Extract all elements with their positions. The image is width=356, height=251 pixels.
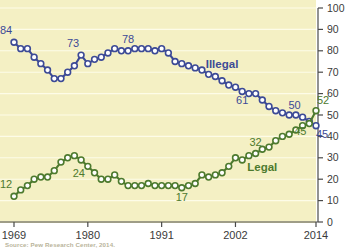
data-point-marker (286, 112, 292, 118)
data-point-marker (51, 76, 57, 82)
data-point-marker (165, 50, 171, 56)
data-point-marker (172, 183, 178, 189)
data-point-marker (266, 144, 272, 150)
data-point-marker (118, 178, 124, 184)
data-point-marker (152, 183, 158, 189)
data-point-marker (85, 61, 91, 67)
data-point-marker (186, 63, 192, 69)
data-point-marker (25, 46, 31, 52)
data-point-marker (92, 170, 98, 176)
data-point-marker (125, 48, 131, 54)
data-point-marker (159, 46, 165, 52)
data-point-label: 45 (294, 125, 306, 137)
data-point-marker (219, 170, 225, 176)
data-point-marker (152, 48, 158, 54)
data-point-marker (78, 157, 84, 163)
data-point-marker (98, 176, 104, 182)
data-point-label: 17 (176, 191, 188, 203)
data-point-marker (192, 181, 198, 187)
data-point-marker (31, 176, 37, 182)
data-point-marker (18, 46, 24, 52)
data-point-marker (300, 114, 306, 120)
x-axis-tick-label: 2014 (304, 229, 328, 241)
data-point-marker (11, 193, 17, 199)
data-point-marker (45, 174, 51, 180)
x-axis-tick-label: 2002 (223, 229, 247, 241)
data-point-marker (165, 183, 171, 189)
data-point-marker (92, 56, 98, 62)
x-axis-tick-label: 1980 (76, 229, 100, 241)
data-point-marker (105, 50, 111, 56)
data-point-marker (212, 172, 218, 178)
data-point-label: 12 (0, 178, 12, 190)
y-axis-tick-label: 50 (327, 109, 339, 121)
data-point-marker (280, 134, 286, 140)
data-point-marker (139, 183, 145, 189)
data-point-marker (253, 151, 259, 157)
y-axis-tick-label: 0 (327, 216, 333, 228)
y-axis-tick-label: 10 (327, 194, 339, 206)
data-point-marker (226, 163, 232, 169)
data-point-marker (38, 174, 44, 180)
data-point-marker (186, 183, 192, 189)
data-point-marker (159, 183, 165, 189)
data-point-marker (31, 54, 37, 60)
y-axis-tick-label: 90 (327, 23, 339, 35)
data-point-marker (139, 46, 145, 52)
source-note: Source: Pew Research Center, 2014. (5, 241, 115, 248)
y-axis-tick-label: 20 (327, 173, 339, 185)
data-point-marker (253, 91, 259, 97)
data-point-marker (273, 138, 279, 144)
data-point-marker (145, 181, 151, 187)
y-axis-tick-label: 40 (327, 130, 339, 142)
data-point-marker (199, 172, 205, 178)
data-point-marker (172, 59, 178, 65)
data-point-label: 78 (122, 33, 134, 45)
data-point-marker (118, 48, 124, 54)
data-point-marker (219, 78, 225, 84)
data-point-label: 61 (236, 94, 248, 106)
series-legend-label-illegal: Illegal (206, 58, 239, 70)
data-point-label: 52 (317, 94, 329, 106)
data-point-marker (233, 84, 239, 90)
data-point-label: 84 (0, 24, 12, 36)
data-point-marker (273, 108, 279, 114)
data-point-marker (239, 157, 245, 163)
data-point-marker (85, 163, 91, 169)
data-point-marker (72, 153, 78, 159)
data-point-marker (125, 183, 131, 189)
data-point-marker (105, 176, 111, 182)
x-axis-tick-label: 1991 (149, 229, 173, 241)
y-axis-tick-label: 80 (327, 44, 339, 56)
data-point-label: 32 (249, 136, 261, 148)
data-point-marker (11, 39, 17, 45)
data-point-marker (226, 82, 232, 88)
data-point-marker (246, 153, 252, 159)
data-point-marker (45, 67, 51, 73)
data-point-label: 45 (316, 128, 328, 140)
plot-background (0, 0, 316, 223)
data-point-marker (51, 168, 57, 174)
data-point-marker (293, 112, 299, 118)
data-point-marker (72, 63, 78, 69)
data-point-label: 24 (73, 167, 85, 179)
data-point-marker (306, 121, 312, 127)
data-point-marker (286, 131, 292, 137)
y-axis: 0102030405060708090100 (318, 2, 345, 228)
chart-container: 0102030405060708090100196919801991200220… (0, 0, 356, 251)
data-point-marker (192, 65, 198, 71)
data-point-marker (58, 159, 64, 165)
data-point-marker (259, 97, 265, 103)
data-point-marker (38, 61, 44, 67)
series-legend-label-legal: Legal (247, 161, 277, 173)
data-point-marker (25, 183, 31, 189)
data-point-marker (206, 174, 212, 180)
data-point-label: 50 (288, 99, 300, 111)
line-chart: 0102030405060708090100196919801991200220… (0, 0, 356, 251)
data-point-marker (266, 104, 272, 110)
data-point-marker (132, 183, 138, 189)
data-point-marker (280, 110, 286, 116)
data-point-marker (65, 155, 71, 161)
y-axis-tick-label: 70 (327, 66, 339, 78)
data-point-marker (313, 108, 319, 114)
